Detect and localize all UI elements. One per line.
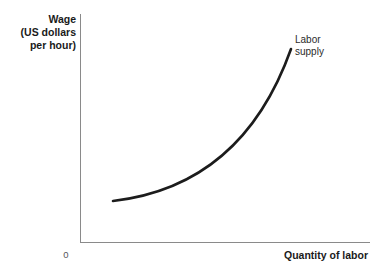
labor-supply-chart: Wage (US dollars per hour) Quantity of l… — [0, 0, 379, 273]
y-axis-title-line-2: (US dollars — [21, 26, 77, 38]
origin-label: 0 — [63, 249, 68, 260]
x-axis-title: Quantity of labor — [284, 249, 368, 261]
y-axis-title-line-1: Wage — [48, 13, 76, 25]
y-axis-title-line-3: per hour) — [30, 39, 76, 51]
labor-supply-label-line-1: Labor — [295, 34, 321, 45]
labor-supply-label-line-2: supply — [295, 46, 324, 57]
chart-canvas: Wage (US dollars per hour) Quantity of l… — [0, 0, 379, 273]
